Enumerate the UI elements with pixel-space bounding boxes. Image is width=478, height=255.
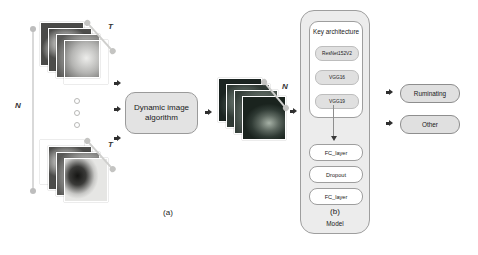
arrow-stacks-to-algorithm <box>113 106 120 113</box>
key-architecture-title: Key architecture <box>310 28 362 35</box>
video-frame <box>64 40 108 84</box>
output-class-other[interactable]: Other <box>400 115 460 134</box>
panel-b-label: (b) <box>301 207 369 216</box>
layer-label: Dropout <box>326 172 346 178</box>
arrow-model-to-ruminating <box>385 89 392 96</box>
stack-ellipsis <box>74 98 80 134</box>
panel-a-label: (a) <box>148 208 188 217</box>
layer-fc-1[interactable]: FC_layer <box>309 144 363 161</box>
output-class-ruminating[interactable]: Ruminating <box>400 84 460 103</box>
architecture-label: VGG16 <box>329 75 345 80</box>
layer-dropout[interactable]: Dropout <box>309 166 363 183</box>
t-axis-label-top: T <box>108 22 113 31</box>
video-frame-stack-bottom <box>40 140 118 206</box>
architecture-to-head-connector <box>333 105 334 137</box>
n-vertical-axis <box>32 30 34 190</box>
figure-canvas: N T T Dynamic image algorithm N <box>0 0 478 255</box>
layer-label: FC_layer <box>325 194 348 200</box>
arrow-dynamic-images-to-model <box>289 108 296 115</box>
layer-fc-2[interactable]: FC_layer <box>309 188 363 205</box>
architecture-option-vgg19[interactable]: VGG19 <box>315 94 359 109</box>
architecture-option-vgg16[interactable]: VGG16 <box>315 70 359 85</box>
key-architecture-card: Key architecture ResNet152V2 VGG16 VGG19 <box>309 21 363 118</box>
arrow-model-to-other <box>385 120 392 127</box>
output-class-label: Ruminating <box>414 90 446 97</box>
architecture-option-resnet152v2[interactable]: ResNet152V2 <box>315 46 359 61</box>
video-frame <box>64 158 108 202</box>
model-container: Key architecture ResNet152V2 VGG16 VGG19… <box>300 10 370 234</box>
arrow-algorithm-to-dynamic-images <box>204 109 211 116</box>
dynamic-image-algorithm-box[interactable]: Dynamic image algorithm <box>125 92 198 134</box>
video-frame-stack-top <box>40 22 118 88</box>
model-caption: Model <box>301 220 369 227</box>
dynamic-image-algorithm-label: Dynamic image algorithm <box>128 103 195 123</box>
architecture-label: VGG19 <box>329 99 345 104</box>
n-vertical-axis-label: N <box>15 101 21 110</box>
output-class-label: Other <box>422 121 438 128</box>
architecture-label: ResNet152V2 <box>322 51 352 56</box>
layer-label: FC_layer <box>325 150 348 156</box>
n-diagonal-label: N <box>282 82 288 91</box>
arrow-bottom-stack-to-algorithm <box>113 135 120 142</box>
arrow-top-stack-to-algorithm <box>113 80 120 87</box>
